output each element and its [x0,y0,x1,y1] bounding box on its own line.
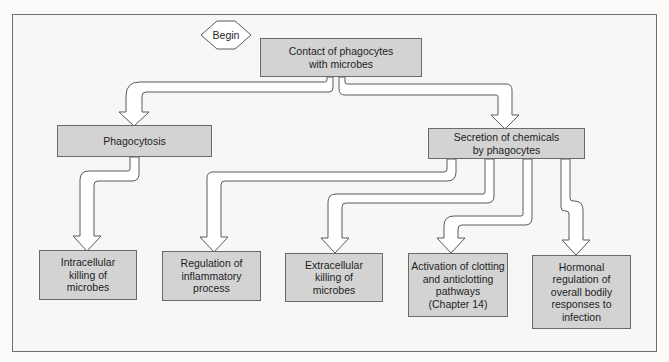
node-secretion: Secretion of chemicals by phagocytes [428,128,585,159]
node-clotting-label: Activation of clotting and anticlotting … [411,260,504,310]
node-clotting: Activation of clotting and anticlotting … [408,253,508,317]
node-hormonal: Hormonal regulation of overall bodily re… [532,255,631,329]
node-extracellular: Extracellular killing of microbes [285,253,383,302]
begin-terminal: Begin [200,20,252,50]
arrow-phagocytosis-to-intracellular [73,157,139,251]
node-phagocytosis: Phagocytosis [57,125,212,157]
arrow-contact-to-secretion [339,77,519,129]
node-contact: Contact of phagocytes with microbes [260,38,422,77]
begin-label: Begin [200,20,252,50]
node-inflammatory: Regulation of inflammatory process [162,251,261,301]
node-contact-label: Contact of phagocytes with microbes [289,45,393,70]
node-hormonal-label: Hormonal regulation of overall bodily re… [551,261,612,324]
node-phagocytosis-label: Phagocytosis [103,135,165,148]
node-intracellular: Intracellular killing of microbes [39,250,137,300]
arrow-contact-to-phagocytosis [119,77,333,126]
node-secretion-label: Secretion of chemicals by phagocytes [454,131,560,156]
node-inflammatory-label: Regulation of inflammatory process [181,257,243,295]
arrow-secretion-to-hormonal [561,159,590,255]
node-intracellular-label: Intracellular killing of microbes [61,256,115,294]
node-extracellular-label: Extracellular killing of microbes [305,259,363,297]
